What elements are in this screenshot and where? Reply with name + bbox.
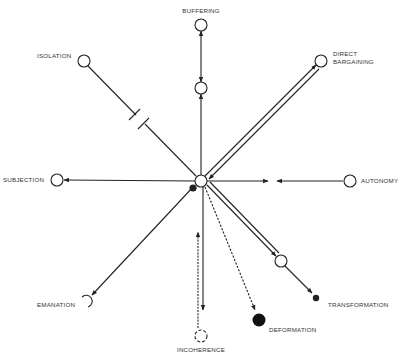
label-transformation: TRANSFORMATION <box>328 301 388 308</box>
node-subjection <box>51 174 63 186</box>
isolation-break-mark-2 <box>138 118 149 129</box>
node-buffering <box>195 19 207 31</box>
node-autonomy <box>344 175 356 187</box>
label-isolation: ISOLATION <box>37 52 71 59</box>
label-emanation: EMANATION <box>37 301 75 308</box>
label-incoherence: INCOHERENCE <box>177 346 225 353</box>
node-deformation <box>253 314 266 327</box>
node-incoherence <box>195 330 207 342</box>
transformation-burst-icon <box>313 295 319 301</box>
edge-isolation-a <box>88 66 136 115</box>
node-isolation <box>78 55 90 67</box>
label-subjection: SUBJECTION <box>3 176 44 183</box>
relationship-diagram: BUFFERING ISOLATION DIRECT BARGAINING SU… <box>0 0 399 354</box>
edge-direct-bargaining-1 <box>205 65 316 176</box>
edge-transformation-3 <box>285 266 312 293</box>
edge-deformation <box>205 187 255 310</box>
edge-transformation-2 <box>210 182 279 253</box>
edge-emanation <box>92 186 194 295</box>
edge-transformation-1 <box>207 185 276 256</box>
label-direct-bargaining-2: BARGAINING <box>333 58 374 65</box>
edge-direct-bargaining-2 <box>209 69 319 179</box>
node-buffering-mid <box>195 82 207 94</box>
label-direct-bargaining-1: DIRECT <box>333 50 357 57</box>
node-center <box>195 175 207 187</box>
isolation-break-mark-1 <box>129 109 140 120</box>
center-burst-icon <box>189 184 196 191</box>
label-buffering: BUFFERING <box>182 7 220 14</box>
edge-isolation-b <box>145 124 196 176</box>
label-autonomy: AUTONOMY <box>361 177 398 184</box>
node-transformation-mid <box>275 255 287 267</box>
label-deformation: DEFORMATION <box>269 326 316 333</box>
node-direct-bargaining <box>315 55 327 67</box>
node-emanation <box>82 295 92 307</box>
edge-subjection <box>64 180 195 181</box>
